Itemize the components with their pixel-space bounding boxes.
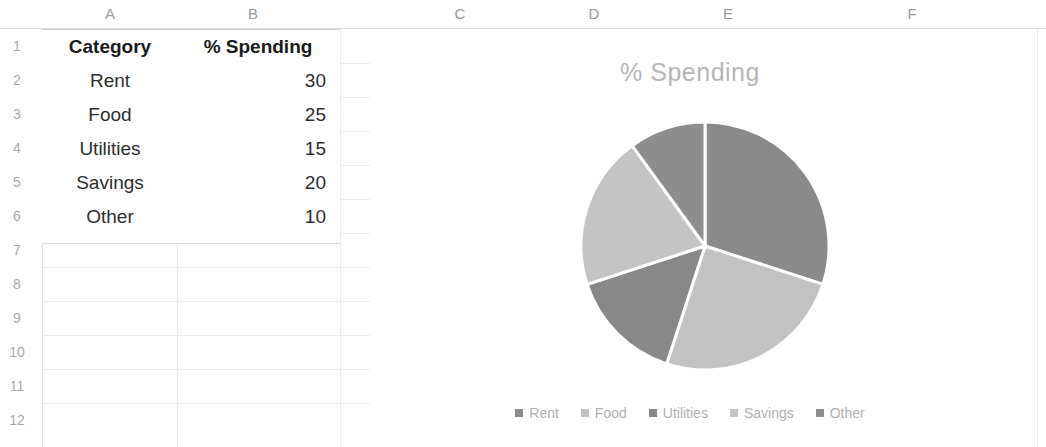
row-header-8[interactable]: 8 — [0, 274, 34, 294]
legend-label-other: Other — [830, 405, 865, 421]
chart-title: % Spending — [370, 58, 1010, 87]
column-header-a[interactable]: A — [76, 4, 144, 24]
column-header-d[interactable]: D — [560, 4, 628, 24]
row-header-12[interactable]: 12 — [0, 410, 34, 430]
row-header-1[interactable]: 1 — [0, 36, 34, 56]
cell-b4-value[interactable]: 15 — [178, 132, 338, 166]
row-header-3[interactable]: 3 — [0, 104, 34, 124]
column-header-b[interactable]: B — [219, 4, 287, 24]
legend-swatch-savings-icon — [730, 409, 738, 417]
row-header-gutter: 1 2 3 4 5 6 7 8 9 10 11 12 — [0, 29, 42, 447]
grid-hline-r12 — [42, 403, 382, 404]
pie-svg — [580, 121, 830, 371]
pie-chart-object[interactable]: % Spending RentFoodUtilitiesSavingsOther — [370, 30, 1010, 435]
cell-a6-category[interactable]: Other — [46, 200, 174, 234]
grid-hline-r10 — [42, 335, 382, 336]
cell-b6-value[interactable]: 10 — [178, 200, 338, 234]
column-header-strip: A B C D E F — [0, 0, 1046, 29]
data-table: Category % Spending Rent 30 Food 25 Util… — [42, 30, 340, 243]
legend-label-rent: Rent — [529, 405, 559, 421]
cell-b1-header-spending[interactable]: % Spending — [178, 30, 338, 64]
row-header-2[interactable]: 2 — [0, 70, 34, 90]
grid-vline-cd — [1037, 29, 1038, 447]
legend-swatch-other-icon — [816, 409, 824, 417]
legend-label-utilities: Utilities — [663, 405, 708, 421]
cell-b5-value[interactable]: 20 — [178, 166, 338, 200]
row-header-10[interactable]: 10 — [0, 342, 34, 362]
cell-a4-category[interactable]: Utilities — [46, 132, 174, 166]
legend-swatch-food-icon — [581, 409, 589, 417]
legend-item-food[interactable]: Food — [581, 405, 627, 421]
row-header-11[interactable]: 11 — [0, 376, 34, 396]
cell-a2-category[interactable]: Rent — [46, 64, 174, 98]
cell-b3-value[interactable]: 25 — [178, 98, 338, 132]
legend-item-rent[interactable]: Rent — [515, 405, 559, 421]
legend-label-savings: Savings — [744, 405, 794, 421]
cell-a5-category[interactable]: Savings — [46, 166, 174, 200]
row-header-7[interactable]: 7 — [0, 240, 34, 260]
legend-label-food: Food — [595, 405, 627, 421]
legend-item-savings[interactable]: Savings — [730, 405, 794, 421]
spreadsheet-canvas: A B C D E F 1 2 3 4 5 6 7 8 9 10 11 12 C… — [0, 0, 1046, 447]
cell-a3-category[interactable]: Food — [46, 98, 174, 132]
legend-swatch-utilities-icon — [649, 409, 657, 417]
row-header-5[interactable]: 5 — [0, 172, 34, 192]
table-bottom-border — [42, 243, 340, 244]
grid-hline-r11 — [42, 369, 382, 370]
cell-b2-value[interactable]: 30 — [178, 64, 338, 98]
pie-plot-area — [580, 121, 830, 371]
row-header-6[interactable]: 6 — [0, 206, 34, 226]
grid-vline-bc — [340, 29, 341, 447]
column-header-e[interactable]: E — [694, 4, 762, 24]
grid-hline-r9 — [42, 301, 382, 302]
row-header-9[interactable]: 9 — [0, 308, 34, 328]
legend-swatch-rent-icon — [515, 409, 523, 417]
row-header-4[interactable]: 4 — [0, 138, 34, 158]
legend-item-utilities[interactable]: Utilities — [649, 405, 708, 421]
column-header-c[interactable]: C — [426, 4, 494, 24]
pie-slice-group — [581, 122, 829, 370]
legend-item-other[interactable]: Other — [816, 405, 865, 421]
cell-a1-header-category[interactable]: Category — [46, 30, 174, 64]
chart-legend: RentFoodUtilitiesSavingsOther — [370, 405, 1010, 421]
grid-hline-r8 — [42, 267, 382, 268]
column-header-f[interactable]: F — [878, 4, 946, 24]
